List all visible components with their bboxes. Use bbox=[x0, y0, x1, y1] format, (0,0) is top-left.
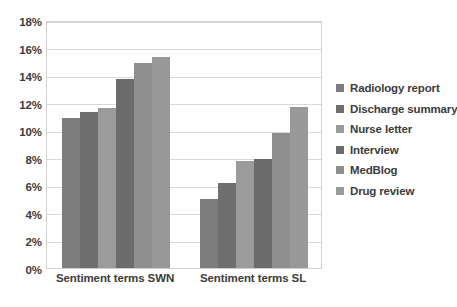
legend-item[interactable]: Interview bbox=[336, 140, 452, 161]
bar bbox=[134, 63, 152, 268]
legend-item-label: Radiology report bbox=[350, 82, 440, 94]
bar bbox=[152, 57, 170, 268]
x-axis: Sentiment terms SWNSentiment terms SL bbox=[46, 272, 322, 296]
legend-item[interactable]: Nurse letter bbox=[336, 119, 452, 140]
y-axis: 0%2%4%6%8%10%12%14%16%18% bbox=[0, 21, 42, 269]
bar bbox=[98, 108, 116, 268]
bar bbox=[218, 183, 236, 268]
y-axis-tick-label: 12% bbox=[0, 99, 42, 111]
legend-item[interactable]: Discharge summary bbox=[336, 99, 452, 120]
y-axis-tick-label: 10% bbox=[0, 126, 42, 138]
y-axis-tick-label: 8% bbox=[0, 154, 42, 166]
bar bbox=[116, 79, 134, 268]
legend-item-label: Discharge summary bbox=[350, 103, 457, 115]
y-axis-tick-label: 0% bbox=[0, 264, 42, 276]
bar-group bbox=[200, 22, 308, 268]
legend-item-label: Interview bbox=[350, 144, 399, 156]
bar-group bbox=[62, 22, 170, 268]
legend-swatch-icon bbox=[336, 105, 344, 113]
bar bbox=[272, 133, 290, 268]
legend-item-label: MedBlog bbox=[350, 164, 398, 176]
plot-area bbox=[46, 21, 322, 269]
bar bbox=[62, 118, 80, 268]
bar bbox=[200, 199, 218, 268]
legend-swatch-icon bbox=[336, 125, 344, 133]
legend-swatch-icon bbox=[336, 187, 344, 195]
y-axis-tick-label: 18% bbox=[0, 16, 42, 28]
legend-item[interactable]: MedBlog bbox=[336, 160, 452, 181]
legend-swatch-icon bbox=[336, 166, 344, 174]
legend-item[interactable]: Drug review bbox=[336, 181, 452, 202]
legend-item-label: Drug review bbox=[350, 185, 414, 197]
legend-item-label: Nurse letter bbox=[350, 123, 412, 135]
y-axis-tick-label: 2% bbox=[0, 236, 42, 248]
y-axis-tick-label: 6% bbox=[0, 181, 42, 193]
legend-swatch-icon bbox=[336, 146, 344, 154]
bar bbox=[236, 161, 254, 268]
bar bbox=[254, 159, 272, 268]
x-axis-tick-label: Sentiment terms SL bbox=[200, 272, 306, 284]
bar bbox=[290, 107, 308, 268]
y-axis-tick-label: 4% bbox=[0, 209, 42, 221]
legend-item[interactable]: Radiology report bbox=[336, 78, 452, 99]
x-axis-tick-label: Sentiment terms SWN bbox=[56, 272, 174, 284]
legend-swatch-icon bbox=[336, 84, 344, 92]
y-axis-tick-label: 16% bbox=[0, 44, 42, 56]
y-axis-tick-label: 14% bbox=[0, 71, 42, 83]
bar bbox=[80, 112, 98, 268]
legend: Radiology reportDischarge summaryNurse l… bbox=[336, 78, 452, 201]
